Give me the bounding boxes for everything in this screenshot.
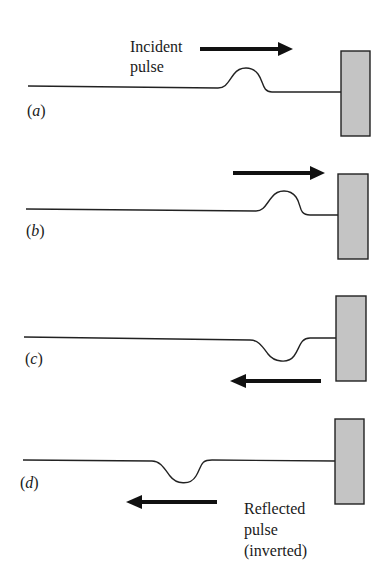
panel-label-d: (d) — [20, 474, 39, 492]
string-with-inverted-pulse — [24, 337, 336, 361]
fixed-wall — [338, 174, 368, 259]
panel-label-c: (c) — [25, 350, 43, 368]
fixed-wall — [336, 296, 366, 381]
panel-a: Incident pulse (a) — [27, 38, 370, 136]
fixed-wall — [335, 419, 364, 504]
panel-label-b: (b) — [26, 222, 45, 240]
string-with-inverted-pulse — [23, 460, 335, 483]
panel-b: (b) — [26, 166, 368, 259]
panel-label-a: (a) — [27, 102, 46, 120]
reflected-label-line2: pulse — [244, 521, 278, 539]
incident-label-line1: Incident — [130, 38, 183, 55]
arrow-right-icon — [233, 166, 325, 180]
arrow-right-icon — [200, 42, 293, 56]
reflected-label-line1: Reflected — [244, 500, 305, 517]
pulse-reflection-diagram: Incident pulse (a) (b) (c) (d) — [0, 0, 392, 584]
fixed-wall — [341, 51, 370, 136]
reflected-label-line3: (inverted) — [244, 542, 307, 560]
string-with-pulse — [26, 191, 338, 215]
string-with-pulse — [28, 68, 341, 92]
incident-label-line2: pulse — [130, 58, 164, 76]
arrow-left-icon — [126, 495, 217, 509]
panel-d: (d) Reflected pulse (inverted) — [20, 419, 364, 560]
arrow-left-icon — [230, 374, 321, 388]
panel-c: (c) — [24, 296, 366, 388]
